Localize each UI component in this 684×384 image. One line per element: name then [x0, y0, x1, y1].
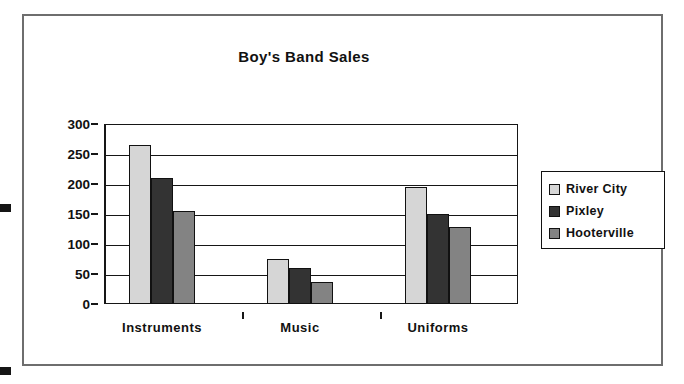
scan-artifact-mark-lower: [0, 367, 11, 375]
y-tick-mark-50: [91, 273, 98, 275]
legend-swatch-icon: [549, 184, 560, 195]
y-tick-label-250: 250: [67, 147, 90, 162]
gridline-50: [106, 275, 517, 276]
y-tick-label-150: 150: [67, 207, 90, 222]
y-tick-label-300: 300: [67, 117, 90, 132]
legend-label: Hooterville: [566, 226, 634, 240]
legend-label: River City: [566, 182, 627, 196]
plot-area: [104, 124, 518, 304]
y-tick-label-50: 50: [75, 267, 90, 282]
y-tick-mark-300: [91, 123, 98, 125]
x-tick-mark-1: [242, 312, 244, 319]
y-tick-mark-150: [91, 213, 98, 215]
legend-item: River City: [549, 178, 664, 200]
x-tick-label-music: Music: [280, 320, 319, 335]
legend: River CityPixleyHooterville: [541, 171, 665, 249]
y-tick-mark-100: [91, 243, 98, 245]
y-tick-label-0: 0: [82, 297, 90, 312]
legend-label: Pixley: [566, 204, 604, 218]
gridline-250: [106, 155, 517, 156]
y-tick-mark-250: [91, 153, 98, 155]
gridline-200: [106, 185, 517, 186]
y-tick-label-100: 100: [67, 237, 90, 252]
gridline-150: [106, 215, 517, 216]
chart-title: Boy's Band Sales: [24, 48, 584, 65]
gridline-100: [106, 245, 517, 246]
chart-page-frame: Boy's Band Sales 050100150200250300 Inst…: [22, 14, 663, 366]
x-tick-label-instruments: Instruments: [122, 320, 202, 335]
y-tick-mark-200: [91, 183, 98, 185]
scan-artifact-mark-upper: [0, 204, 11, 212]
legend-swatch-icon: [549, 206, 560, 217]
legend-item: Hooterville: [549, 222, 664, 244]
y-tick-mark-0: [91, 303, 98, 305]
x-axis: InstrumentsMusicUniforms: [104, 312, 518, 338]
y-axis: 050100150200250300: [48, 124, 98, 304]
x-tick-label-uniforms: Uniforms: [407, 320, 468, 335]
legend-swatch-icon: [549, 228, 560, 239]
x-tick-mark-2: [380, 312, 382, 319]
legend-item: Pixley: [549, 200, 664, 222]
y-tick-label-200: 200: [67, 177, 90, 192]
